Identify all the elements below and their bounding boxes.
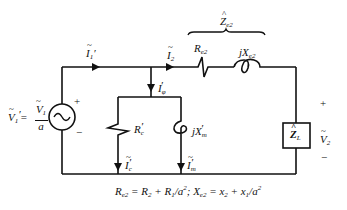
source-minus: − xyxy=(76,127,82,138)
label-rc: Rc′ xyxy=(134,124,146,139)
inductor-xm xyxy=(174,97,187,174)
arrow-i1-icon xyxy=(92,63,100,71)
arrow-ic-icon xyxy=(114,163,122,171)
label-xe2: jXe2 xyxy=(239,47,255,62)
label-zl: ^ZL xyxy=(290,129,301,144)
label-iphi: Iφ′ xyxy=(158,83,168,98)
label-re2: Re2 xyxy=(194,43,207,58)
v2-minus: − xyxy=(321,152,327,163)
label-source: ~V1′= xyxy=(8,112,27,127)
label-ze2: ^Ze2 xyxy=(220,16,233,31)
label-i1: ~I1′ xyxy=(86,48,96,63)
v2-plus: + xyxy=(320,98,326,109)
label-i2: ~I2 xyxy=(167,50,174,65)
label-source-frac: ~V1 a xyxy=(35,104,47,132)
label-ic: ~Ic′ xyxy=(125,160,134,175)
source-plus: + xyxy=(74,96,80,107)
equation: Re2 = R2 + R1/a2; Xe2 = x2 + x1/a2 xyxy=(115,184,261,199)
arrow-im-icon xyxy=(177,163,185,171)
label-im: ~Im′ xyxy=(187,160,198,175)
label-xm: jXm′ xyxy=(192,126,209,141)
circuit-diagram xyxy=(0,0,347,210)
resistor-re2 xyxy=(194,57,234,77)
label-v2: ~V2 xyxy=(320,134,330,149)
arrow-iphi-icon xyxy=(147,84,155,92)
